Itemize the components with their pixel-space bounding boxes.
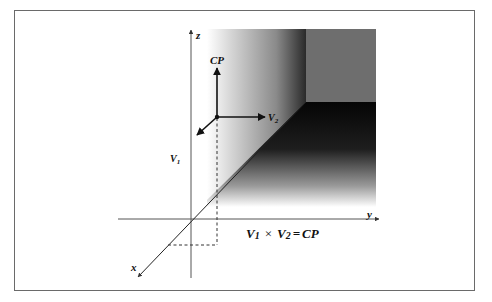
cross-product-diagram: z y x CP V2 V1 V1×V2=CP (0, 0, 492, 302)
cross-product-equation: V1×V2=CP (246, 226, 320, 241)
y-axis-label: y (365, 208, 372, 220)
shaded-plane (207, 29, 376, 207)
vector-origin-point (215, 115, 219, 119)
back-square (306, 29, 376, 102)
z-axis-label: z (195, 29, 201, 41)
x-axis-label: x (130, 261, 137, 273)
cp-label: CP (210, 54, 224, 66)
v1-label: V1 (170, 153, 180, 166)
